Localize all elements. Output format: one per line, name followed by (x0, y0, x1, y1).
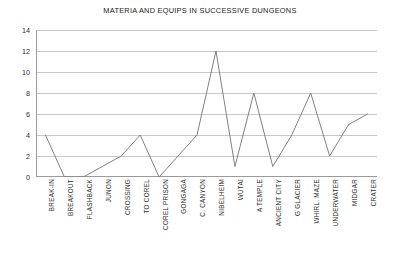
line-chart: MATERIA AND EQUIPS IN SUCCESSIVE DUNGEON… (0, 0, 400, 260)
x-axis-tick-label: FLASHBACK (86, 179, 93, 219)
y-axis-tick-label: 2 (26, 152, 30, 161)
x-axis-tick-label: JUNON (105, 179, 112, 202)
y-axis-tick-labels: 14121086420 (0, 30, 36, 177)
x-axis-tick-label: C. CANYON (199, 179, 206, 217)
x-axis-tick-label: BREAKOUT (67, 179, 74, 216)
x-axis-tick-label: WHIRL. MAZE (313, 179, 320, 224)
x-axis-tick-label: MIDGAR (351, 179, 358, 206)
y-axis-tick-label: 4 (26, 131, 30, 140)
x-axis-tick-label: G GLACIER (294, 179, 301, 216)
y-axis-tick-label: 6 (26, 110, 30, 119)
plot-svg (36, 30, 377, 177)
x-axis-tick-label: A TEMPLE (256, 179, 263, 212)
plot-area (36, 30, 377, 177)
x-axis-tick-label: ANCIENT CITY (275, 179, 282, 226)
x-axis-tick-label: UNDERWATER (332, 179, 339, 226)
y-axis-tick-label: 8 (26, 89, 30, 98)
y-axis-tick-label: 0 (26, 173, 30, 182)
gridlines (36, 31, 377, 178)
y-axis-tick-label: 10 (22, 68, 30, 77)
y-axis-tick-label: 12 (22, 47, 30, 56)
x-axis-tick-label: CRATER (370, 179, 377, 206)
y-axis-tick-label: 14 (22, 26, 30, 35)
chart-title: MATERIA AND EQUIPS IN SUCCESSIVE DUNGEON… (0, 6, 400, 15)
x-axis-tick-label: BREAK-IN (48, 179, 55, 211)
x-axis-tick-labels: BREAK-INBREAKOUTFLASHBACKJUNONCROSSINGTO… (36, 179, 377, 259)
x-axis-tick-label: WUTAI (237, 179, 244, 200)
x-axis-tick-label: NIBELHEIM (218, 179, 225, 216)
x-axis-tick-label: TO COREL (143, 179, 150, 213)
x-axis-tick-label: CROSSING (124, 179, 131, 215)
x-axis-tick-label: COREL PRISON (162, 179, 169, 230)
x-axis-tick-label: GONGAGA (180, 179, 187, 214)
